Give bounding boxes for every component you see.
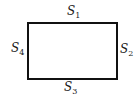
side-label-bottom: S3 — [64, 81, 77, 93]
side-label-base: S — [67, 4, 75, 18]
side-label-subscript: 4 — [19, 48, 24, 57]
diagram-canvas: S1 S2 S3 S4 — [0, 0, 140, 96]
side-label-base: S — [120, 42, 128, 56]
side-label-left: S4 — [11, 42, 24, 54]
side-label-base: S — [11, 41, 19, 55]
side-label-subscript: 2 — [128, 49, 133, 58]
side-label-subscript: 3 — [72, 87, 77, 96]
side-label-top: S1 — [67, 5, 80, 17]
side-label-base: S — [64, 80, 72, 94]
rectangle-shape — [27, 22, 118, 80]
side-label-right: S2 — [120, 43, 133, 55]
side-label-subscript: 1 — [75, 11, 80, 20]
